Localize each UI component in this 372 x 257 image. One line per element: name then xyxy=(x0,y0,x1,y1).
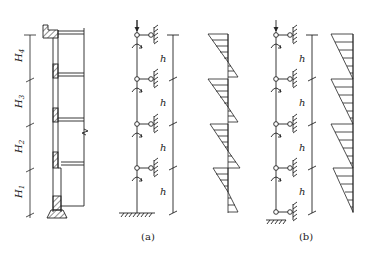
frame-model-b xyxy=(266,20,318,224)
svg-text:H1: H1 xyxy=(13,185,26,199)
svg-text:H3: H3 xyxy=(13,94,26,109)
svg-text:H4: H4 xyxy=(13,49,26,63)
svg-text:H2: H2 xyxy=(13,139,26,154)
svg-text:h: h xyxy=(160,142,166,153)
svg-text:h: h xyxy=(160,186,166,197)
svg-text:h: h xyxy=(299,186,305,197)
dimension-line-H xyxy=(24,35,36,218)
column-elevation xyxy=(43,25,88,218)
story-height-labels-b: h h h h xyxy=(299,53,305,197)
svg-text:h: h xyxy=(299,142,305,153)
caption-a: (a) xyxy=(141,231,155,242)
svg-text:h: h xyxy=(160,97,166,108)
moment-diagram-a xyxy=(208,34,240,213)
svg-text:h: h xyxy=(160,53,166,64)
frame-model-a xyxy=(119,20,179,217)
story-height-labels-a: h h h h xyxy=(160,53,166,197)
section-height-labels: H4 H3 H2 H1 xyxy=(13,49,26,199)
column-analysis-figure: H4 H3 H2 H1 xyxy=(0,0,372,257)
svg-text:h: h xyxy=(299,53,305,64)
moment-diagram-b xyxy=(331,34,353,213)
caption-b: (b) xyxy=(299,231,313,242)
svg-text:h: h xyxy=(299,97,305,108)
